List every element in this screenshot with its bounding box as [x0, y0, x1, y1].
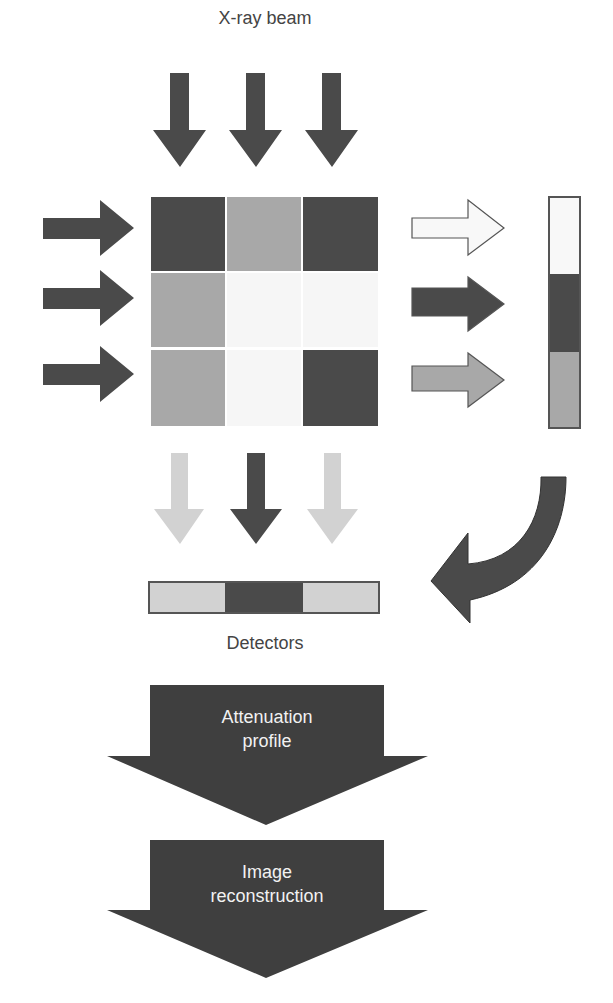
- attenuation-profile-label: Attenuation profile: [150, 705, 384, 753]
- reconstruction-line-2: reconstruction: [150, 884, 384, 908]
- projection-arrow-down-1: [154, 453, 204, 544]
- beam-arrow-right-3: [43, 346, 134, 402]
- grid-cell-r3c1: [151, 350, 225, 426]
- beam-arrow-down-1: [153, 73, 206, 167]
- output-arrow-right-2: [412, 277, 504, 331]
- detectors-label: Detectors: [180, 633, 350, 654]
- attenuation-line-2: profile: [150, 729, 384, 753]
- grid-cell-r2c1: [151, 273, 225, 347]
- curved-arrow-icon: [431, 477, 566, 623]
- grid-cell-r2c3: [303, 273, 378, 347]
- beam-arrow-down-2: [229, 73, 282, 167]
- output-arrow-right-3: [412, 353, 504, 407]
- grid-cell-r1c3: [303, 197, 378, 271]
- grid-cell-r2c2: [227, 273, 301, 347]
- grid-cell-r1c2: [227, 197, 301, 271]
- beam-arrow-right-2: [43, 270, 134, 326]
- ct-diagram-canvas: [0, 0, 613, 1003]
- detector-bar: [149, 582, 379, 613]
- grid-cell-r1c1: [151, 197, 225, 271]
- grid-cell-r3c2: [227, 350, 301, 426]
- row-profile-bar: [549, 197, 580, 428]
- attenuation-line-1: Attenuation: [150, 705, 384, 729]
- beam-arrow-down-3: [305, 73, 358, 167]
- projection-arrow-down-2: [230, 453, 282, 544]
- image-reconstruction-label: Image reconstruction: [150, 860, 384, 908]
- projection-arrow-down-3: [307, 453, 358, 544]
- reconstruction-line-1: Image: [150, 860, 384, 884]
- attenuation-grid: [151, 197, 378, 426]
- beam-arrow-right-1: [43, 200, 134, 256]
- grid-cell-r3c3: [303, 350, 378, 426]
- output-arrow-right-1: [412, 200, 504, 255]
